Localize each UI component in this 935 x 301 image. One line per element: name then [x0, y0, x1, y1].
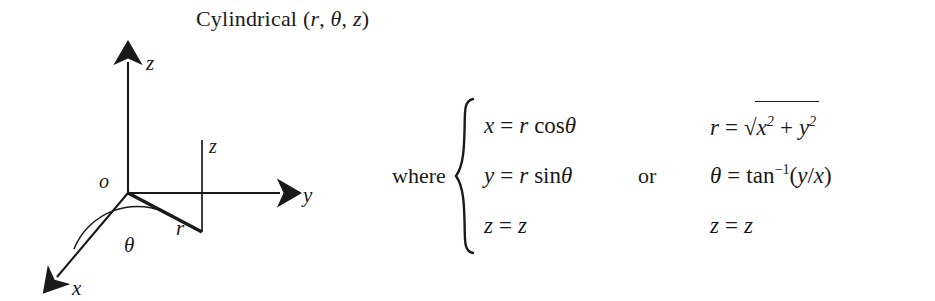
eq-r-term2: y	[799, 115, 809, 140]
title-comma-1: ,	[319, 6, 325, 31]
axes-svg: z y x o z r θ	[0, 30, 340, 301]
equation-block: where x=rcosθ y=rsinθ z=z or r=√x2+y2 θ=…	[380, 95, 935, 270]
eq-z-right-rhs: z	[744, 213, 753, 238]
eq-x-theta: θ	[565, 113, 576, 138]
x-axis-label: x	[71, 276, 82, 300]
where-label: where	[392, 163, 446, 189]
eq-y-sin-function: sin	[534, 163, 561, 188]
origin-label: o	[99, 170, 109, 192]
eq-z-left-lhs: z	[484, 213, 493, 238]
radius-label: r	[176, 216, 185, 240]
cylindrical-coordinates-figure: Cylindrical (r, θ, z) z	[0, 0, 935, 301]
eq-y-rhs-var: r	[519, 163, 528, 188]
theta-angle-label: θ	[124, 233, 134, 257]
title-comma-2: ,	[342, 6, 348, 31]
eq-z-left-equals: =	[493, 201, 518, 251]
equation-y: y=rsinθ	[484, 151, 576, 201]
eq-r-term1: x	[757, 115, 767, 140]
cartesian-from-cylindrical-column: x=rcosθ y=rsinθ z=z	[484, 101, 576, 251]
theta-arc	[74, 206, 170, 249]
eq-r-equals: =	[719, 103, 744, 153]
title-close-paren: )	[362, 6, 370, 31]
title-var-z: z	[353, 6, 362, 31]
eq-y-theta: θ	[561, 163, 572, 188]
eq-theta-arg-close: )	[824, 163, 832, 188]
eq-y-lhs: y	[484, 163, 494, 188]
eq-r-pow1: 2	[767, 113, 774, 129]
eq-z-right-equals: =	[719, 201, 744, 251]
eq-theta-tan-function: tan	[746, 163, 774, 188]
eq-theta-lhs: θ	[710, 163, 721, 188]
figure-title: Cylindrical (r, θ, z)	[196, 6, 369, 32]
eq-theta-arg-den: x	[814, 163, 824, 188]
eq-x-cos-function: cos	[534, 113, 565, 138]
eq-theta-equals: =	[721, 151, 746, 201]
title-var-theta: θ	[331, 6, 342, 31]
equation-theta: θ=tan−1(y/x)	[710, 151, 832, 201]
y-axis-label: y	[301, 183, 313, 207]
eq-r-lhs: r	[710, 115, 719, 140]
equation-z-left: z=z	[484, 201, 576, 251]
coordinate-axes-diagram: z y x o z r θ	[0, 30, 340, 301]
eq-z-left-rhs: z	[518, 213, 527, 238]
equation-x: x=rcosθ	[484, 101, 576, 151]
title-var-r: r	[310, 6, 319, 31]
equation-r: r=√x2+y2	[710, 101, 832, 151]
eq-x-equals: =	[494, 101, 519, 151]
eq-z-right-lhs: z	[710, 213, 719, 238]
eq-x-rhs-var: r	[519, 113, 528, 138]
eq-r-plus: +	[774, 103, 799, 153]
eq-theta-arg-num: y	[797, 163, 807, 188]
equation-z-right: z=z	[710, 201, 832, 251]
square-root-group: √x2+y2	[744, 101, 819, 153]
system-brace	[452, 97, 478, 255]
height-segment-label: z	[208, 135, 217, 157]
x-axis-line	[57, 193, 128, 277]
title-name: Cylindrical	[196, 6, 297, 31]
eq-x-lhs: x	[484, 113, 494, 138]
z-axis-label: z	[145, 51, 154, 75]
eq-r-pow2: 2	[809, 113, 816, 129]
eq-y-equals: =	[494, 151, 519, 201]
or-label: or	[638, 163, 656, 189]
eq-theta-exponent: −1	[774, 161, 789, 177]
cylindrical-from-cartesian-column: r=√x2+y2 θ=tan−1(y/x) z=z	[710, 101, 832, 251]
radicand: x2+y2	[755, 101, 820, 153]
